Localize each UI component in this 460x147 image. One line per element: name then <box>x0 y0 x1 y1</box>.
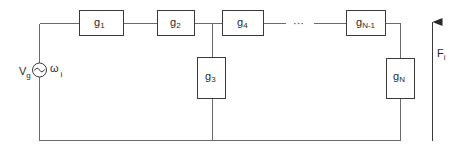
output-indicator: Fi <box>433 22 446 141</box>
ellipsis: ··· <box>293 17 304 29</box>
element-g1: g1 <box>80 11 124 36</box>
source-voltage-label: Vg <box>19 65 31 80</box>
element-gN: gN <box>387 59 415 99</box>
output-label: Fi <box>437 47 446 62</box>
element-g3: g3 <box>198 58 226 99</box>
element-g2: g2 <box>158 11 195 36</box>
source-frequency-label: ωi <box>50 62 63 79</box>
circuit-diagram: Vg ωi g1 g2 g4 ··· gN-1 g3 gN Fi <box>0 0 460 147</box>
ac-source: Vg ωi <box>19 62 63 80</box>
element-gN-1: gN-1 <box>347 11 386 36</box>
element-g4: g4 <box>223 11 264 36</box>
